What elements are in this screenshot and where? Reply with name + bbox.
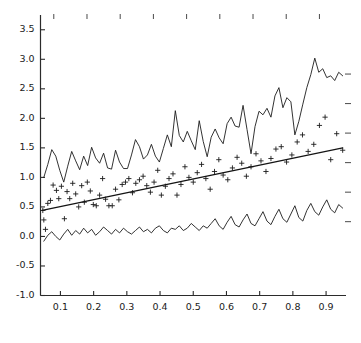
scatter-marker-plus <box>295 139 300 144</box>
scatter-marker-plus <box>54 188 59 193</box>
y-tick-label: 3.5 <box>19 23 34 34</box>
scatter-marker-plus <box>91 202 96 207</box>
x-tick-label: 0.4 <box>152 301 167 312</box>
scatter-marker-plus <box>97 193 102 198</box>
upper-noisy-line-path <box>44 58 343 182</box>
scatter-marker-plus <box>88 188 93 193</box>
scatter-marker-plus <box>137 177 142 182</box>
series-lower-noisy-line <box>44 200 343 241</box>
x-tick-label: 0.2 <box>86 301 101 312</box>
scatter-marker-plus <box>144 183 149 188</box>
scatter-marker-plus <box>279 144 284 149</box>
chart-figure: -1.0-0.50.00.51.01.52.02.53.03.5 0.10.20… <box>0 0 361 343</box>
regression-fit-path <box>42 148 343 211</box>
scatter-marker-plus <box>116 197 121 202</box>
x-tick-label: 0.7 <box>252 301 267 312</box>
scatter-marker-plus <box>166 176 171 181</box>
scatter-marker-plus <box>79 183 84 188</box>
scatter-marker-plus <box>191 180 196 185</box>
x-tick-label: 0.9 <box>319 301 334 312</box>
scatter-marker-plus <box>141 174 146 179</box>
series-scatter-points <box>40 115 345 232</box>
x-tick-label-group: 0.10.20.30.40.50.60.70.80.9 <box>53 301 334 312</box>
scatter-marker-plus <box>195 170 200 175</box>
scatter-marker-plus <box>322 115 327 120</box>
scatter-marker-plus <box>155 168 160 173</box>
scatter-marker-plus <box>76 204 81 209</box>
scatter-marker-plus <box>334 131 339 136</box>
scatter-marker-plus <box>113 187 118 192</box>
scatter-marker-plus <box>59 184 64 189</box>
y-tick-label: -1.0 <box>16 289 35 300</box>
scatter-marker-plus <box>43 227 48 232</box>
x-tick-label: 0.8 <box>285 301 300 312</box>
scatter-marker-plus <box>300 132 305 137</box>
scatter-marker-plus <box>110 203 115 208</box>
scatter-marker-plus <box>62 216 67 221</box>
scatter-marker-plus <box>48 198 53 203</box>
scatter-marker-plus <box>56 196 61 201</box>
scatter-marker-plus <box>178 182 183 187</box>
series-regression-fit-line <box>42 148 343 211</box>
scatter-marker-plus <box>174 193 179 198</box>
x-tick-label: 0.6 <box>219 301 234 312</box>
x-tick-label: 0.1 <box>53 301 68 312</box>
scatter-marker-plus <box>51 182 56 187</box>
y-tick-group <box>41 30 46 296</box>
right-tick-group <box>345 74 351 222</box>
scatter-marker-plus <box>85 180 90 185</box>
y-tick-label: 3.0 <box>19 53 34 64</box>
y-tick-label: 1.5 <box>19 141 34 152</box>
scatter-marker-plus <box>170 171 175 176</box>
scatter-marker-plus <box>317 123 322 128</box>
scatter-marker-plus <box>268 156 273 161</box>
x-tick-label: 0.5 <box>186 301 201 312</box>
scatter-marker-plus <box>216 157 221 162</box>
x-tick-label: 0.3 <box>119 301 134 312</box>
y-tick-label: 0.5 <box>19 200 34 211</box>
scatter-marker-plus <box>258 158 263 163</box>
scatter-marker-plus <box>208 187 213 192</box>
chart-canvas: -1.0-0.50.00.51.01.52.02.53.03.5 0.10.20… <box>0 0 361 343</box>
y-tick-label: 2.5 <box>19 82 34 93</box>
y-tick-label: 2.0 <box>19 112 34 123</box>
scatter-marker-plus <box>94 203 99 208</box>
scatter-marker-plus <box>263 169 268 174</box>
scatter-marker-plus <box>148 190 153 195</box>
top-tick-group <box>54 14 320 19</box>
scatter-marker-plus <box>212 169 217 174</box>
scatter-marker-plus <box>41 217 46 222</box>
scatter-marker-plus <box>120 182 125 187</box>
scatter-marker-plus <box>45 201 50 206</box>
scatter-marker-plus <box>239 161 244 166</box>
y-tick-label: -0.5 <box>16 259 35 270</box>
scatter-marker-plus <box>306 149 311 154</box>
x-tick-group <box>60 291 326 296</box>
scatter-marker-plus <box>230 165 235 170</box>
scatter-marker-plus <box>225 177 230 182</box>
scatter-marker-plus <box>133 181 138 186</box>
scatter-marker-plus <box>67 196 72 201</box>
scatter-marker-plus <box>100 176 105 181</box>
scatter-marker-plus <box>73 191 78 196</box>
scatter-marker-plus <box>311 142 316 147</box>
y-tick-label: 1.0 <box>19 171 34 182</box>
scatter-marker-plus <box>182 164 187 169</box>
scatter-marker-plus <box>244 174 249 179</box>
scatter-marker-plus <box>159 193 164 198</box>
scatter-marker-plus <box>273 146 278 151</box>
scatter-marker-plus <box>328 157 333 162</box>
scatter-marker-plus <box>70 181 75 186</box>
scatter-marker-plus <box>126 176 131 181</box>
scatter-marker-plus <box>253 151 258 156</box>
lower-noisy-line-path <box>44 200 343 241</box>
scatter-marker-plus <box>64 189 69 194</box>
y-tick-label: 0.0 <box>19 230 34 241</box>
scatter-marker-plus <box>199 162 204 167</box>
scatter-marker-plus <box>234 155 239 160</box>
series-upper-noisy-line <box>44 58 343 182</box>
y-tick-label-group: -1.0-0.50.00.51.01.52.02.53.03.5 <box>16 23 35 300</box>
scatter-marker-plus <box>123 180 128 185</box>
scatter-marker-plus <box>151 180 156 185</box>
scatter-marker-plus <box>289 152 294 157</box>
